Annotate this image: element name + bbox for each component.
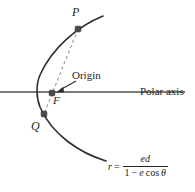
polar-equation-formula: r = ed 1 − e cos θ [108,154,168,178]
formula-denominator: 1 − e cos θ [123,167,168,179]
label-focus-f: F [53,95,60,106]
formula-denominator-e: e [139,167,143,178]
label-point-q: Q [31,120,40,132]
formula-denominator-theta: θ [161,167,166,178]
formula-denominator-minus: − [132,167,138,178]
polar-conic-figure: P Q F Origin Polar axis r = ed 1 − e cos… [0,0,195,192]
formula-equals: = [114,161,120,172]
conic-curve [37,16,106,161]
point-marker-p [75,26,81,32]
formula-denominator-one: 1 [125,167,130,178]
label-origin: Origin [72,70,101,81]
formula-denominator-cos: cos [146,167,159,178]
formula-numerator: ed [137,154,154,166]
label-point-p: P [72,6,79,18]
label-polar-axis: Polar axis [140,86,184,97]
formula-fraction: ed 1 − e cos θ [123,154,168,178]
origin-arrow-head [56,87,64,93]
point-marker-q [41,111,47,117]
formula-lhs: r [108,161,112,172]
